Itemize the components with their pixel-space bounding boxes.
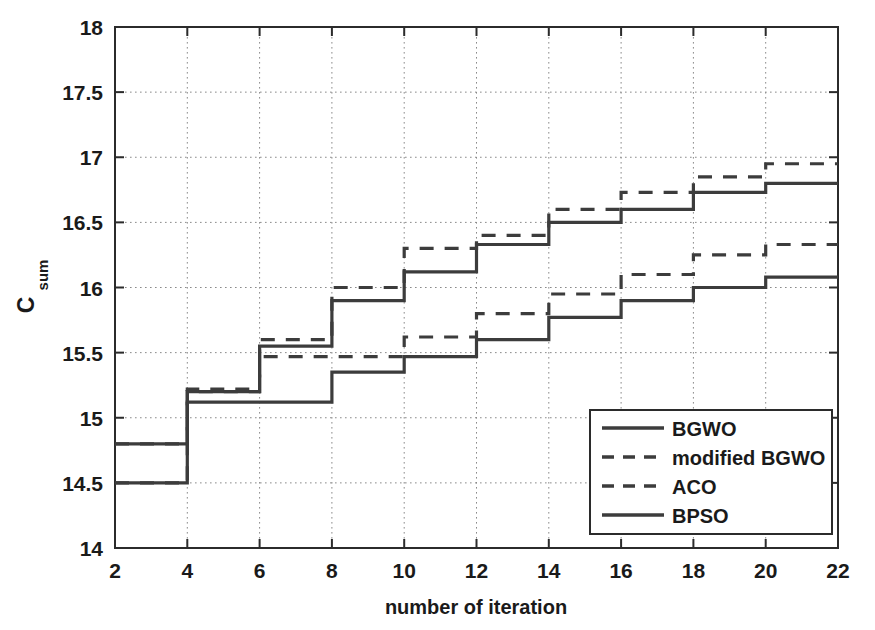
chart-figure: 246810121416182022 1414.51515.51616.5171… xyxy=(0,0,875,630)
x-tick-label: 10 xyxy=(393,559,416,582)
line-chart: 246810121416182022 1414.51515.51616.5171… xyxy=(0,0,875,630)
legend-label-bpso: BPSO xyxy=(672,505,729,527)
y-axis-title-base: C xyxy=(13,297,39,314)
x-tick-label: 6 xyxy=(254,559,266,582)
x-tick-label: 22 xyxy=(826,559,849,582)
legend[interactable]: BGWOmodified BGWOACOBPSO xyxy=(590,410,832,534)
x-tick-label: 4 xyxy=(181,559,193,582)
x-tick-label: 12 xyxy=(465,559,488,582)
y-axis-title-subscript: sum xyxy=(34,260,51,291)
x-tick-label: 2 xyxy=(109,559,121,582)
y-tick-label: 15.5 xyxy=(62,342,103,365)
x-tick-label: 16 xyxy=(609,559,632,582)
y-tick-label: 14 xyxy=(80,537,104,560)
x-tick-label: 14 xyxy=(537,559,561,582)
y-tick-label: 14.5 xyxy=(62,472,103,495)
legend-label-bgwo: BGWO xyxy=(672,418,736,440)
y-tick-label: 17.5 xyxy=(62,81,103,104)
y-tick-label: 16.5 xyxy=(62,211,103,234)
legend-label-aco: ACO xyxy=(672,476,716,498)
chart-background xyxy=(0,0,875,630)
x-tick-label: 8 xyxy=(326,559,338,582)
y-tick-label: 16 xyxy=(80,277,103,300)
legend-label-modified-bgwo: modified BGWO xyxy=(672,447,825,469)
y-tick-label: 15 xyxy=(80,407,104,430)
y-tick-label: 18 xyxy=(80,16,104,39)
x-tick-label: 20 xyxy=(754,559,777,582)
y-tick-label: 17 xyxy=(80,146,103,169)
x-tick-label: 18 xyxy=(682,559,706,582)
x-axis-title: number of iteration xyxy=(385,596,567,618)
